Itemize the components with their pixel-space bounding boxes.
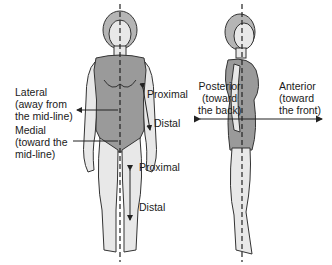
label-proximal-arm: Proximal (147, 88, 188, 100)
label-distal-arm: Distal (154, 117, 180, 129)
label-proximal-leg: Proximal (139, 161, 180, 173)
label-posterior: Posterior (toward the back) (198, 80, 241, 116)
label-distal-leg: Distal (139, 201, 165, 213)
label-lateral: Lateral (away from the mid-line) (15, 86, 73, 122)
label-medial: Medial (toward the mid-line) (15, 124, 68, 160)
label-anterior: Anterior (toward the front) (279, 80, 321, 116)
